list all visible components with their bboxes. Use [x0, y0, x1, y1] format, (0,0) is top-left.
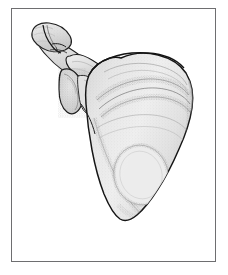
figure-root: Scapula with lateral clavicle and acromi…	[0, 0, 228, 275]
scapula-illustration: Scapula with lateral clavicle and acromi…	[0, 0, 228, 275]
scapula-body	[84, 50, 198, 225]
